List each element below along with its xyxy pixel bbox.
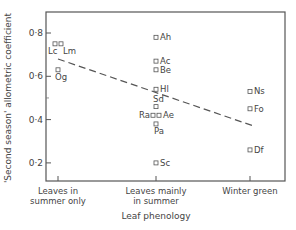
y-tick-label: 0·4 <box>29 115 44 125</box>
x-tick-label: summer only <box>30 196 86 206</box>
point-label: Ra <box>139 110 150 120</box>
square-marker-icon <box>154 87 158 91</box>
x-tick-label: in summer <box>133 196 179 206</box>
dashed-trend-line <box>58 59 254 126</box>
data-point: Fo <box>248 104 264 114</box>
square-marker-icon <box>154 35 158 39</box>
data-point: Sd <box>153 94 164 109</box>
x-axis-label: Leaf phenology <box>121 211 191 221</box>
point-label: Ae <box>163 110 174 120</box>
point-label: Sc <box>160 158 170 168</box>
data-points: LcLmOgAhAcBeHlSdRaAePaScNsFoDf <box>48 32 265 168</box>
x-tick-label: Leaves in <box>38 186 78 196</box>
scatter-chart: 0·80·60·40·2 Leaves insummer onlyLeaves … <box>0 0 296 230</box>
square-marker-icon <box>248 107 252 111</box>
y-tick-label: 0·8 <box>29 28 44 38</box>
square-marker-icon <box>248 148 252 152</box>
data-point: Be <box>154 65 171 75</box>
data-point: Ns <box>248 86 265 96</box>
data-point: Pa <box>154 122 164 136</box>
data-point: Og <box>55 68 67 82</box>
point-label: Pa <box>154 126 164 136</box>
y-tick-label: 0·6 <box>29 71 44 81</box>
square-marker-icon <box>154 105 158 109</box>
data-point: Ae <box>157 110 174 120</box>
data-point: Ra <box>139 110 155 120</box>
square-marker-icon <box>154 59 158 63</box>
point-label: Df <box>254 145 265 155</box>
point-label: Lc <box>48 46 58 56</box>
square-marker-icon <box>151 113 155 117</box>
point-label: Ah <box>160 32 171 42</box>
point-label: Ns <box>254 86 265 96</box>
trend-line <box>58 59 254 126</box>
point-label: Og <box>55 72 67 82</box>
point-label: Be <box>160 65 171 75</box>
data-point: Lm <box>59 42 76 56</box>
square-marker-icon <box>157 113 161 117</box>
square-marker-icon <box>248 89 252 93</box>
square-marker-icon <box>154 68 158 72</box>
point-label: Sd <box>153 94 164 104</box>
data-point: Sc <box>154 158 170 168</box>
data-point: Df <box>248 145 265 155</box>
point-label: Lm <box>63 46 76 56</box>
data-point: Ah <box>154 32 171 42</box>
x-tick-label: Winter green <box>222 186 277 196</box>
x-tick-label: Leaves mainly <box>125 186 186 196</box>
point-label: Fo <box>254 104 264 114</box>
y-axis-label: 'Second season' allometric coefficient <box>3 12 13 183</box>
data-point: Lc <box>48 42 58 56</box>
square-marker-icon <box>154 161 158 165</box>
y-tick-label: 0·2 <box>29 158 43 168</box>
